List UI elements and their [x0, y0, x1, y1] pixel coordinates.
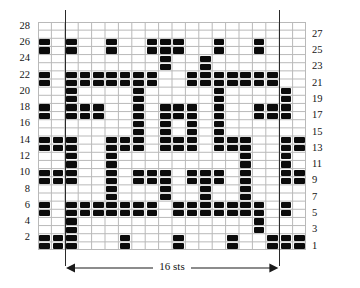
chart-cell — [160, 186, 171, 192]
chart-cell — [173, 202, 184, 208]
chart-cell — [200, 72, 211, 78]
chart-cell — [281, 243, 292, 249]
row-number-left: 12 — [4, 151, 30, 162]
chart-cell — [281, 235, 292, 241]
row-number-right: 19 — [312, 94, 338, 105]
chart-cell — [227, 80, 238, 86]
chart-cell — [187, 137, 198, 143]
chart-cell — [227, 202, 238, 208]
chart-cell — [187, 202, 198, 208]
chart-cell — [66, 137, 77, 143]
chart-cell — [133, 104, 144, 110]
chart-cell — [254, 47, 265, 53]
chart-cell — [187, 170, 198, 176]
chart-cell — [173, 113, 184, 119]
chart-cell — [160, 121, 171, 127]
chart-cell — [240, 145, 251, 151]
chart-cell — [254, 113, 265, 119]
chart-cell — [106, 153, 117, 159]
chart-cell — [66, 39, 77, 45]
chart-cell — [120, 72, 131, 78]
chart-cell — [106, 170, 117, 176]
row-number-right: 27 — [312, 29, 338, 40]
chart-cell — [39, 113, 50, 119]
chart-cell — [93, 210, 104, 216]
chart-cell — [214, 113, 225, 119]
chart-cell — [160, 129, 171, 135]
chart-cell — [200, 170, 211, 176]
chart-cell — [173, 47, 184, 53]
chart-cell — [187, 145, 198, 151]
chart-cell — [240, 194, 251, 200]
chart-cell — [93, 80, 104, 86]
row-number-left: 14 — [4, 135, 30, 146]
repeat-line-left — [65, 10, 66, 266]
chart-cell — [281, 96, 292, 102]
chart-cell — [254, 104, 265, 110]
chart-cell — [120, 243, 131, 249]
chart-cell — [160, 104, 171, 110]
chart-cell — [214, 121, 225, 127]
chart-cell — [133, 72, 144, 78]
chart-cell — [133, 96, 144, 102]
chart-cell — [53, 243, 64, 249]
chart-cell — [160, 64, 171, 70]
chart-cell — [133, 121, 144, 127]
chart-cell — [147, 210, 158, 216]
chart-cell — [281, 161, 292, 167]
chart-cell — [214, 104, 225, 110]
chart-cell — [160, 137, 171, 143]
chart-cell — [200, 178, 211, 184]
chart-cell — [133, 129, 144, 135]
chart-cell — [106, 194, 117, 200]
chart-cell — [53, 235, 64, 241]
chart-cell — [187, 129, 198, 135]
chart-cell — [66, 145, 77, 151]
chart-cell — [294, 170, 305, 176]
chart-cell — [214, 88, 225, 94]
row-number-right: 9 — [312, 175, 338, 186]
chart-cell — [106, 178, 117, 184]
chart-cell — [294, 243, 305, 249]
chart-cell — [53, 178, 64, 184]
chart-cell — [66, 153, 77, 159]
chart-cell — [227, 243, 238, 249]
chart-cell — [214, 80, 225, 86]
chart-cell — [200, 210, 211, 216]
chart-cell — [240, 137, 251, 143]
chart-cell — [187, 121, 198, 127]
chart-cell — [214, 72, 225, 78]
row-number-right: 3 — [312, 224, 338, 235]
chart-cell — [254, 72, 265, 78]
chart-cell — [66, 170, 77, 176]
chart-cell — [120, 145, 131, 151]
row-number-right: 25 — [312, 45, 338, 56]
chart-cell — [80, 104, 91, 110]
row-number-left: 10 — [4, 167, 30, 178]
chart-cell — [240, 170, 251, 176]
chart-cell — [200, 56, 211, 62]
chart-cell — [187, 72, 198, 78]
chart-cell — [281, 153, 292, 159]
chart-cell — [120, 202, 131, 208]
chart-cell — [160, 56, 171, 62]
chart-cell — [281, 137, 292, 143]
chart-cell — [200, 202, 211, 208]
chart-cell — [147, 47, 158, 53]
chart-cell — [39, 210, 50, 216]
chart-cell — [240, 178, 251, 184]
chart-cell — [281, 145, 292, 151]
chart-cell — [133, 137, 144, 143]
chart-grid[interactable] — [38, 22, 306, 250]
row-number-right: 1 — [312, 241, 338, 252]
chart-cell — [106, 80, 117, 86]
chart-cell — [173, 210, 184, 216]
chart-cell — [80, 80, 91, 86]
chart-cell — [214, 137, 225, 143]
chart-cell — [187, 178, 198, 184]
chart-cell — [160, 47, 171, 53]
chart-cell — [281, 104, 292, 110]
chart-cell — [281, 88, 292, 94]
chart-cell — [39, 80, 50, 86]
row-number-left: 24 — [4, 53, 30, 64]
